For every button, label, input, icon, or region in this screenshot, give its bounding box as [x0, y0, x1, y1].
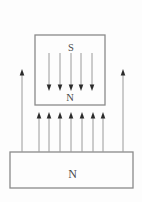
field-arrow-down	[69, 53, 74, 91]
diagram-canvas: S N N	[0, 0, 142, 202]
field-arrow-up	[47, 112, 52, 152]
field-arrow-up	[121, 69, 126, 152]
field-arrow-down	[58, 53, 63, 91]
field-arrow-down	[79, 53, 84, 91]
bottom-magnet-north-pole-label: N	[68, 167, 77, 181]
field-arrow-up	[101, 112, 106, 152]
magnetic-field-diagram: S N N	[0, 0, 142, 202]
field-arrow-up	[80, 112, 85, 152]
field-arrow-up	[37, 112, 42, 152]
field-arrow-up	[58, 112, 63, 152]
field-arrow-down	[90, 53, 95, 91]
field-arrow-up	[91, 112, 96, 152]
field-arrow-down	[47, 53, 52, 91]
top-magnet-south-pole-label: S	[68, 42, 74, 53]
field-arrow-up	[20, 69, 25, 152]
pole-labels: S N N	[66, 42, 77, 181]
field-arrow-up	[69, 112, 74, 152]
top-magnet-north-pole-label: N	[66, 92, 74, 103]
